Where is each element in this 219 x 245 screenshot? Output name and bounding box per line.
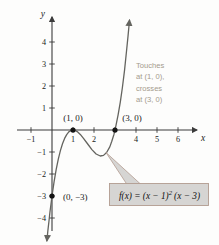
point-dot bbox=[49, 193, 54, 198]
point-label: (1, 0) bbox=[63, 113, 83, 123]
annotation-line: at (1, 0), bbox=[136, 72, 164, 81]
y-tick-label: 4 bbox=[42, 38, 46, 47]
x-tick-label: 5 bbox=[155, 135, 159, 144]
point-dot bbox=[112, 127, 117, 132]
annotation-line: Touches bbox=[136, 61, 164, 70]
annotation-line: at (3, 0) bbox=[136, 95, 163, 104]
formula-suffix: (x − 3) bbox=[174, 191, 200, 202]
point-label: (3, 0) bbox=[122, 113, 142, 123]
x-tick-label: 1 bbox=[71, 135, 75, 144]
annotation-text: Touches at (1, 0), crosses at (3, 0) bbox=[136, 61, 166, 104]
formula-prefix: f(x) = (x − 1) bbox=[119, 191, 169, 202]
x-tick-label: 4 bbox=[134, 135, 138, 144]
x-tick-label: 6 bbox=[176, 135, 180, 144]
x-axis-label: x bbox=[200, 133, 206, 143]
y-tick-label: 2 bbox=[42, 82, 46, 91]
y-tick-label: 1 bbox=[42, 104, 46, 113]
point-dot bbox=[70, 127, 75, 132]
y-tick-label: −1 bbox=[37, 148, 46, 157]
point-label: (0, −3) bbox=[63, 192, 88, 202]
y-tick-label: −4 bbox=[37, 214, 46, 223]
annotation-line: crosses bbox=[136, 84, 162, 93]
x-tick-label: −1 bbox=[27, 135, 36, 144]
formula-callout: f(x) = (x − 1)2(x − 3) bbox=[106, 153, 209, 206]
function-graph: x y −1124564321−1−2−3−4 (1, 0)(3, 0)(0, … bbox=[0, 0, 219, 245]
y-tick-label: −3 bbox=[37, 192, 46, 201]
formula-text: f(x) = (x − 1)2(x − 3) bbox=[119, 189, 200, 202]
y-tick-label: −2 bbox=[37, 170, 46, 179]
x-tick-label: 2 bbox=[92, 135, 96, 144]
callout-pointer bbox=[106, 153, 141, 185]
y-axis-label: y bbox=[40, 9, 46, 19]
formula-exponent: 2 bbox=[169, 189, 173, 196]
y-tick-label: 3 bbox=[42, 60, 46, 69]
